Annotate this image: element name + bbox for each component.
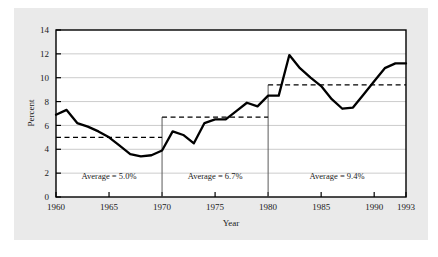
- y-tick-label: 12: [40, 49, 49, 59]
- period-average-labels: Average = 5.0%Average = 6.7%Average = 9.…: [82, 171, 365, 181]
- period-average-label: Average = 6.7%: [188, 171, 243, 181]
- x-tick-label: 1960: [47, 202, 66, 212]
- y-tick-labels: 02468101214: [40, 25, 50, 202]
- y-tick-label: 6: [45, 121, 50, 131]
- y-axis-title: Percent: [26, 99, 36, 126]
- x-tick-label: 1993: [397, 202, 416, 212]
- x-tick-labels: 19601965197019751980198519901993: [47, 202, 416, 212]
- x-tick-label: 1980: [259, 202, 278, 212]
- y-tick-label: 4: [45, 144, 50, 154]
- y-tick-label: 2: [45, 168, 50, 178]
- x-tick-label: 1975: [206, 202, 225, 212]
- chart-canvas: 02468101214 1960196519701975198019851990…: [0, 0, 438, 257]
- x-axis-title: Year: [223, 218, 240, 228]
- y-tick-label: 0: [45, 192, 50, 202]
- y-tick-label: 14: [40, 25, 50, 35]
- x-tick-label: 1985: [312, 202, 331, 212]
- x-tick-label: 1970: [153, 202, 172, 212]
- period-average-label: Average = 5.0%: [82, 171, 137, 181]
- x-tick-label: 1990: [365, 202, 384, 212]
- y-tick-label: 8: [45, 97, 50, 107]
- period-average-label: Average = 9.4%: [310, 171, 365, 181]
- chart-figure: 02468101214 1960196519701975198019851990…: [0, 0, 438, 257]
- y-tick-label: 10: [40, 73, 50, 83]
- x-tick-label: 1965: [100, 202, 119, 212]
